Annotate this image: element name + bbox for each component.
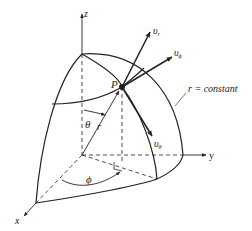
theta-label: θ: [85, 118, 91, 130]
radius-label: r: [97, 121, 101, 132]
theta-arc: [84, 110, 105, 115]
spherical-coordinates-diagram: z y x P r θ ϕ r = constant υr υϕ υθ: [0, 0, 252, 231]
y-axis-label: y: [209, 150, 214, 161]
sphere-octant-surface: [36, 54, 183, 203]
z-axis-label: z: [83, 8, 88, 19]
x-axis: [24, 155, 82, 216]
surface-leader-line: [175, 93, 186, 106]
v-phi-label: υϕ: [174, 47, 182, 59]
v-r-label: υr: [153, 25, 161, 37]
v-theta-vector: [122, 87, 152, 136]
point-p-label: P: [110, 78, 118, 90]
x-axis-label: x: [14, 215, 20, 226]
v-theta-label: υθ: [154, 138, 162, 150]
surface-label: r = constant: [188, 83, 238, 94]
phi-label: ϕ: [86, 173, 92, 185]
